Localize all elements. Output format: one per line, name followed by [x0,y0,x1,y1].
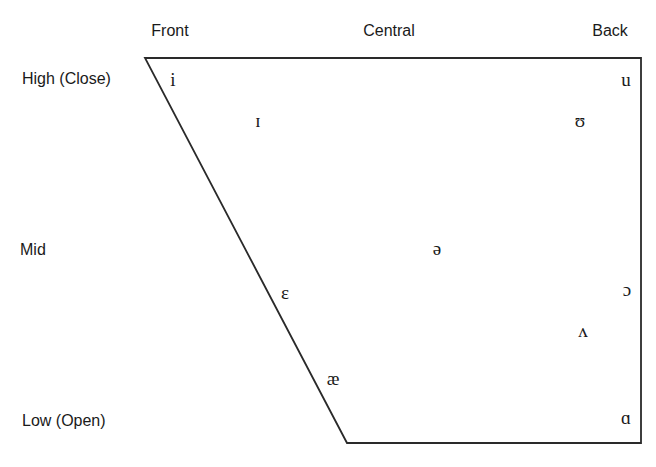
column-label-back: Back [592,23,628,39]
vowel-open-o: ɔ [623,280,631,299]
row-label-low: Low (Open) [22,413,106,429]
vowel-i: i [170,70,175,89]
column-label-front: Front [151,23,188,39]
vowel-chart: Front Central Back High (Close) Mid Low … [0,0,656,467]
vowel-open-e: ɛ [281,283,289,302]
vowel-schwa: ə [433,239,441,258]
vowel-small-capital-i: ɪ [255,111,260,130]
quadrilateral-outline [145,58,641,443]
column-label-central: Central [363,23,415,39]
vowel-turned-v: ʌ [578,321,588,340]
vowel-script-a: ɑ [621,408,631,427]
row-label-high: High (Close) [22,71,111,87]
vowel-upsilon: ʊ [575,111,585,130]
row-label-mid: Mid [20,242,46,258]
vowel-u: u [621,70,631,89]
vowel-ash: æ [327,369,340,388]
